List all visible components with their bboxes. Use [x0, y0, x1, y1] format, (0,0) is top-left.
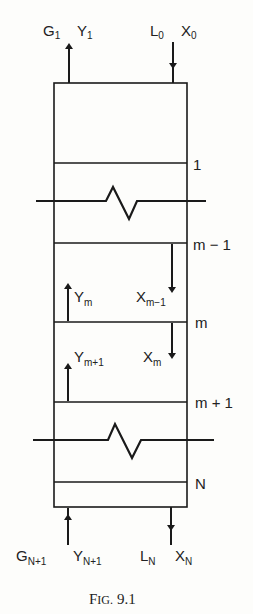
figure-caption: FIG.9.1	[89, 591, 136, 607]
label-X-m: Xm	[143, 348, 161, 368]
label-Y-N-plus-1: YN+1	[73, 547, 102, 567]
stage-label-1: 1	[193, 156, 201, 173]
label-Y1: Y1	[77, 22, 93, 41]
label-Y-m-plus-1: Ym+1	[74, 348, 104, 368]
label-X0: X0	[181, 22, 197, 41]
label-G1: G1	[43, 22, 61, 41]
stage-label-m-minus-1: m − 1	[193, 236, 231, 253]
label-L-N: LN	[140, 547, 156, 567]
label-G-N-plus-1: GN+1	[16, 547, 47, 567]
break-symbol-upper	[36, 187, 206, 219]
stage-label-m-plus-1: m + 1	[195, 394, 233, 411]
label-L0: L0	[150, 22, 164, 41]
stage-label-N: N	[195, 475, 206, 492]
cascade-column-diagram: G1 Y1 L0 X0 1 m − 1 m m + 1 N Ym Xm−1 Ym…	[0, 0, 253, 614]
label-X-N: XN	[175, 547, 192, 567]
label-Y-m: Ym	[74, 288, 92, 308]
label-X-m-minus-1: Xm−1	[136, 288, 166, 308]
stage-label-m: m	[195, 314, 208, 331]
